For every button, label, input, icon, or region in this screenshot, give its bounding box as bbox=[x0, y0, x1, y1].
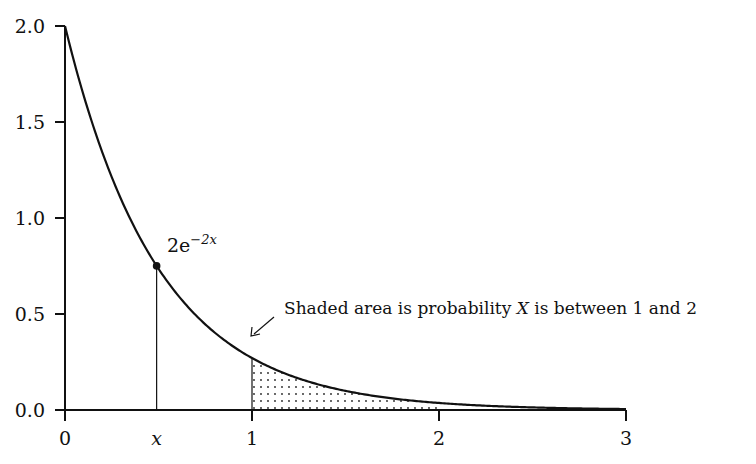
y-tick-label: 1.5 bbox=[15, 111, 45, 133]
x-tick-label: 2 bbox=[433, 427, 445, 449]
function-label: 2e−2x bbox=[167, 232, 218, 256]
y-tick-label: 1.0 bbox=[15, 207, 45, 229]
x-ticks: 0x123 bbox=[59, 410, 632, 449]
y-tick-label: 2.0 bbox=[15, 15, 45, 37]
exponential-density-chart: 0.00.51.01.52.0 0x123 2e−2x Shaded area … bbox=[0, 0, 756, 464]
x-tick-label: 3 bbox=[620, 427, 632, 449]
annotation-arrow bbox=[251, 317, 274, 336]
y-tick-label: 0.0 bbox=[15, 399, 45, 421]
shaded-area-1-to-2 bbox=[252, 358, 439, 410]
marked-point bbox=[153, 262, 161, 270]
x-tick-label: 0 bbox=[59, 427, 71, 449]
y-ticks: 0.00.51.01.52.0 bbox=[15, 15, 65, 421]
y-tick-label: 0.5 bbox=[15, 303, 45, 325]
x-tick-label: x bbox=[151, 427, 162, 449]
density-curve bbox=[65, 26, 626, 409]
annotation-text: Shaded area is probability X is between … bbox=[284, 298, 697, 318]
x-tick-label: 1 bbox=[246, 427, 258, 449]
